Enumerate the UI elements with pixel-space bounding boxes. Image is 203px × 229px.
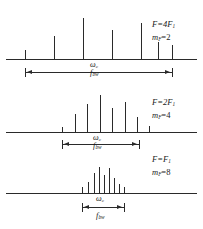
arrow-right-cap (172, 68, 173, 77)
arrow-right-cap (124, 203, 125, 212)
spectral-line (124, 187, 125, 193)
center-frequency-label: ωc (96, 195, 104, 203)
baseline-axis (6, 59, 197, 60)
spectral-line (125, 102, 126, 132)
arrow-right-cap (139, 140, 140, 149)
spectral-line (104, 175, 105, 193)
spectral-line (62, 127, 63, 132)
spectral-line (25, 50, 26, 59)
arrow-head-left-icon (64, 142, 69, 146)
frame-rate-label: F=F1 (152, 155, 171, 164)
spectral-line (172, 45, 173, 59)
spectral-line (149, 126, 150, 132)
arrow-head-right-icon (165, 70, 170, 74)
arrow-head-left-icon (84, 205, 89, 209)
spectral-line (158, 42, 159, 59)
baseline-axis (6, 132, 197, 133)
spectral-line (100, 95, 101, 132)
spectral-line (83, 18, 84, 59)
spectral-line (87, 104, 88, 132)
arrow-head-right-icon (132, 142, 137, 146)
spectral-line (141, 23, 142, 59)
spectral-line (75, 114, 76, 132)
spectral-line (99, 167, 100, 193)
spectral-line (54, 36, 55, 59)
spectral-line (94, 173, 95, 193)
spectral-line (109, 168, 110, 193)
bandwidth-label: fbw (90, 68, 99, 77)
spectral-line (119, 184, 120, 193)
spectrum-figure: ωcfbwF=4F1mF=2ωcfbwF=2F1mF=4ωcfbwF=F1mF=… (0, 0, 203, 229)
spectral-line (112, 30, 113, 59)
frame-rate-label: F=4F1 (152, 20, 175, 29)
frame-rate-label: F=2F1 (152, 98, 175, 107)
bandwidth-label: fbw (96, 211, 105, 220)
arrow-head-right-icon (117, 205, 122, 209)
bandwidth-label: fbw (93, 141, 102, 150)
spectral-line (114, 178, 115, 193)
spectral-line (137, 117, 138, 132)
modulation-index-label: mF=8 (152, 168, 170, 177)
spectral-line (112, 108, 113, 132)
modulation-index-label: mF=4 (152, 111, 170, 120)
modulation-index-label: mF=2 (152, 33, 170, 42)
spectral-line (88, 182, 89, 193)
spectral-line (82, 187, 83, 193)
arrow-head-left-icon (27, 70, 32, 74)
